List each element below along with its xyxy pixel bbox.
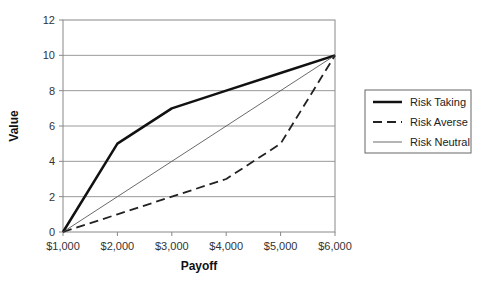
y-tick-label: 6 [49, 120, 55, 132]
legend-label: Risk Averse [410, 116, 468, 128]
x-axis-label: Payoff [181, 259, 219, 273]
grid-lines [63, 55, 335, 196]
line-chart: 024681012 $1,000$2,000$3,000$4,000$5,000… [0, 0, 492, 285]
series-risk-neutral [63, 55, 335, 232]
x-tick-label: $6,000 [318, 240, 352, 252]
legend-label: Risk Neutral [410, 136, 470, 148]
x-tick-label: $5,000 [264, 240, 298, 252]
y-tick-label: 8 [49, 85, 55, 97]
data-series [63, 55, 335, 232]
y-tick-label: 10 [43, 49, 55, 61]
y-tick-label: 0 [49, 226, 55, 238]
y-tick-label: 4 [49, 155, 55, 167]
x-tick-label: $4,000 [209, 240, 243, 252]
x-tick-label: $1,000 [46, 240, 80, 252]
x-tick-label: $2,000 [101, 240, 135, 252]
y-tick-label: 2 [49, 191, 55, 203]
legend-label: Risk Taking [410, 96, 466, 108]
x-axis-ticks: $1,000$2,000$3,000$4,000$5,000$6,000 [46, 232, 352, 252]
x-tick-label: $3,000 [155, 240, 189, 252]
legend: Risk TakingRisk AverseRisk Neutral [365, 90, 471, 153]
y-axis-ticks: 024681012 [43, 14, 63, 238]
y-axis-label: Value [7, 110, 21, 142]
y-tick-label: 12 [43, 14, 55, 26]
